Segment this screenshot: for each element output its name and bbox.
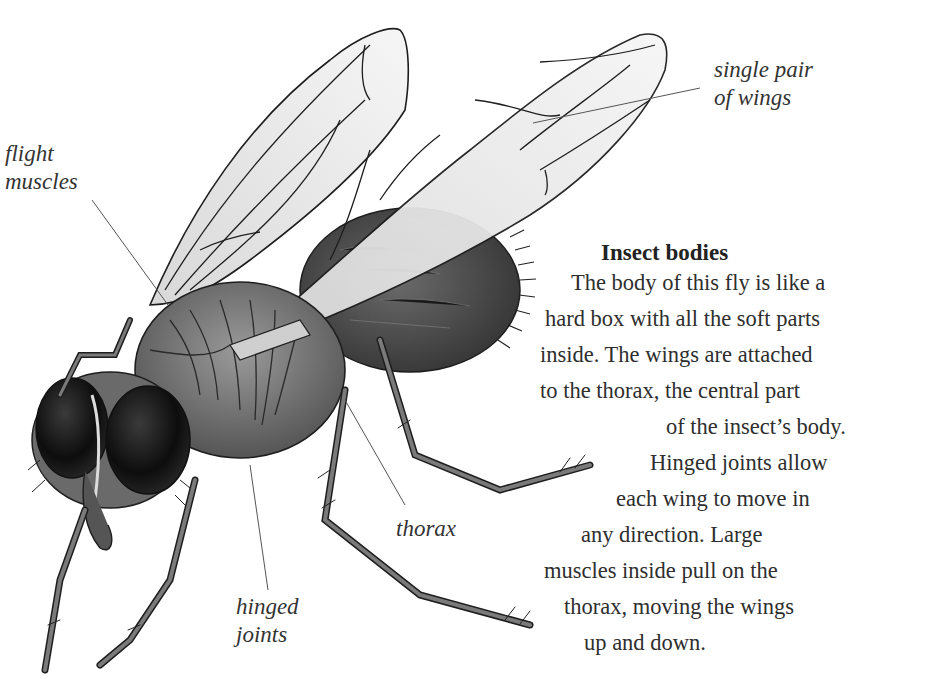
article-line: The body of this fly is like a: [571, 268, 825, 298]
article-line: inside. The wings are attached: [540, 340, 813, 370]
article-heading: Insect bodies: [601, 240, 728, 266]
label-thorax: thorax: [396, 515, 456, 543]
article-line: muscles inside pull on the: [544, 556, 778, 586]
article-line: of the insect’s body.: [666, 412, 846, 442]
leader-thorax: [345, 400, 405, 505]
head: [28, 372, 195, 550]
article-line: Hinged joints allow: [650, 448, 827, 478]
label-single-pair-of-wings: single pair of wings: [714, 56, 813, 112]
article-line: thorax, moving the wings: [564, 592, 794, 622]
leader-hinged-joints: [250, 465, 268, 590]
article-line: hard box with all the soft parts: [545, 304, 820, 334]
label-flight-muscles: flight muscles: [5, 140, 78, 196]
right-compound-eye: [106, 386, 190, 494]
article-line: up and down.: [584, 628, 706, 658]
article-line: to the thorax, the central part: [540, 376, 800, 406]
leader-flight-muscles: [92, 200, 168, 305]
label-hinged-joints: hinged joints: [236, 593, 299, 649]
article-line: each wing to move in: [616, 484, 810, 514]
article-line: any direction. Large: [581, 520, 762, 550]
